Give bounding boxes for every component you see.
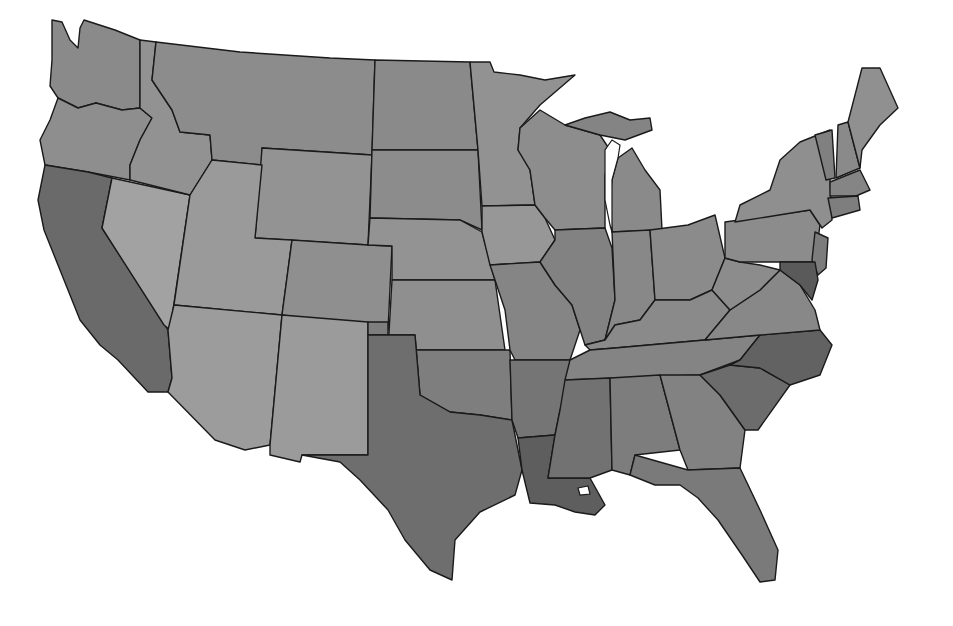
state-nd — [372, 60, 478, 150]
state-wy — [255, 148, 372, 245]
state-az — [168, 305, 282, 450]
lake-pontchartrain — [578, 486, 590, 495]
state-me — [848, 68, 898, 168]
state-wa — [50, 20, 140, 110]
state-ct-ri — [828, 196, 860, 218]
us-county-choropleth-map — [0, 0, 953, 626]
state-fl — [630, 455, 778, 582]
map-canvas — [0, 0, 953, 626]
states-layer — [38, 20, 898, 582]
state-nm — [270, 315, 368, 462]
